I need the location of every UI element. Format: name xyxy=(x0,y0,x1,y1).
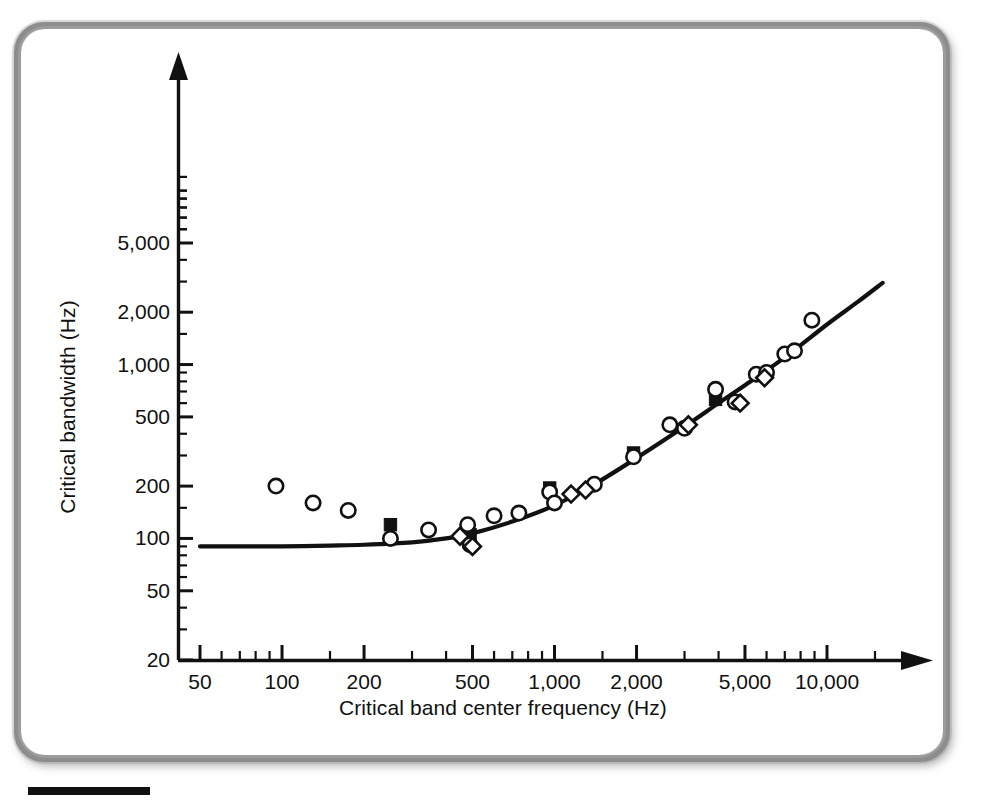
x-axis-tick-label: 5,000 xyxy=(719,670,772,694)
data-point-square-filled xyxy=(384,518,396,530)
data-point-circle-open xyxy=(383,531,397,545)
data-point-circle-open xyxy=(341,503,355,517)
chart-plot-area: Critical band center frequency (Hz) Crit… xyxy=(0,0,989,801)
y-axis-tick-label: 200 xyxy=(74,474,170,498)
x-axis-tick-label: 500 xyxy=(455,670,490,694)
data-point-circle-open xyxy=(306,496,320,510)
figure-credit-bar xyxy=(28,787,150,795)
data-point-circle-open xyxy=(487,509,501,523)
data-series-filled-square-measurements xyxy=(384,393,722,541)
fitted-curve xyxy=(200,283,883,547)
x-axis-tick-label: 10,000 xyxy=(795,670,859,694)
y-axis-tick-label: 500 xyxy=(74,405,170,429)
data-point-circle-open xyxy=(626,450,640,464)
data-point-circle-open xyxy=(805,313,819,327)
x-axis-tick-label: 100 xyxy=(264,670,299,694)
x-axis-title: Critical band center frequency (Hz) xyxy=(339,696,667,720)
x-axis-tick-label: 50 xyxy=(188,670,211,694)
x-axis-tick-label: 200 xyxy=(347,670,382,694)
data-point-circle-open xyxy=(421,523,435,537)
data-point-circle-open xyxy=(787,344,801,358)
data-point-circle-open xyxy=(708,382,722,396)
y-axis-tick-label: 100 xyxy=(74,526,170,550)
data-point-circle-open xyxy=(547,496,561,510)
data-point-circle-open xyxy=(512,506,526,520)
data-point-circle-open xyxy=(663,418,677,432)
y-axis-tick-label: 1,000 xyxy=(74,353,170,377)
y-axis-tick-label: 2,000 xyxy=(74,300,170,324)
figure-root: Critical band center frequency (Hz) Crit… xyxy=(0,0,989,801)
data-series-open-circle-measurements xyxy=(269,313,819,552)
y-axis-tick-label: 20 xyxy=(74,648,170,672)
y-axis-tick-label: 5,000 xyxy=(74,231,170,255)
x-axis-tick-label: 2,000 xyxy=(610,670,663,694)
x-axis-arrowhead xyxy=(901,651,933,670)
chart-ticks xyxy=(178,177,875,660)
y-axis-tick-label: 50 xyxy=(74,579,170,603)
data-point-circle-open xyxy=(269,479,283,493)
chart-axes xyxy=(169,52,933,670)
x-axis-tick-label: 1,000 xyxy=(528,670,581,694)
y-axis-arrowhead xyxy=(169,52,188,80)
